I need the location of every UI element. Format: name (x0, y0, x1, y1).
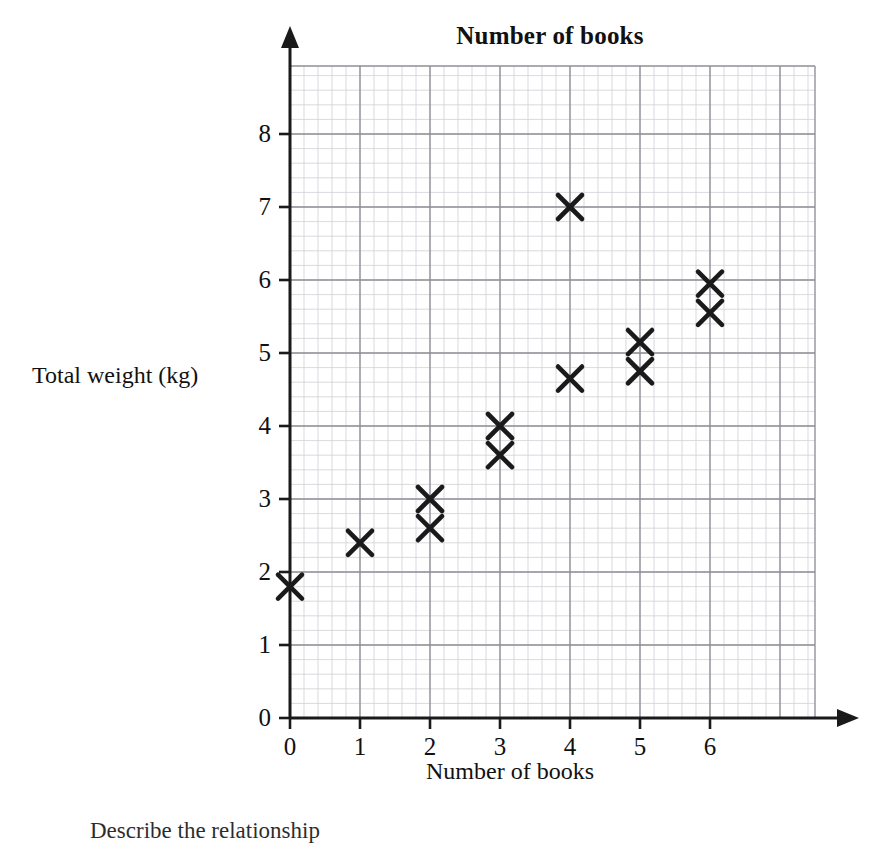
y-tick-label: 1 (241, 632, 271, 657)
y-tick-label: 7 (241, 194, 271, 219)
minor-gridlines (290, 66, 815, 718)
x-tick-label: 3 (485, 734, 515, 759)
x-tick-label: 5 (625, 734, 655, 759)
y-tick-label: 2 (241, 559, 271, 584)
y-tick-label: 0 (241, 705, 271, 730)
y-tick-label: 8 (241, 121, 271, 146)
major-gridlines (290, 66, 815, 718)
footer-note: Describe the relationship (90, 818, 320, 844)
y-tick-label: 4 (241, 413, 271, 438)
x-tick-label: 6 (695, 734, 725, 759)
x-tick-label: 4 (555, 734, 585, 759)
x-tick-label: 0 (275, 734, 305, 759)
x-tick-label: 1 (345, 734, 375, 759)
y-tick-label: 5 (241, 340, 271, 365)
y-tick-label: 6 (241, 267, 271, 292)
x-tick-label: 2 (415, 734, 445, 759)
y-tick-label: 3 (241, 486, 271, 511)
